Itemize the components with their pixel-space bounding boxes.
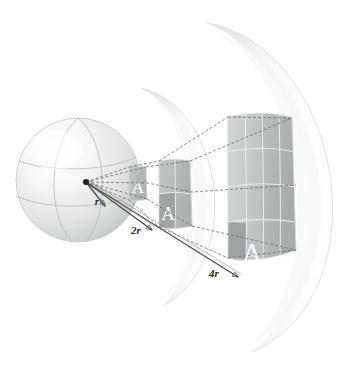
sphere-body: [16, 118, 140, 242]
label-r: r: [95, 195, 100, 207]
patch-2r: A: [159, 159, 192, 229]
inverse-square-law-figure: A A A: [0, 0, 352, 372]
inner-sphere: [16, 118, 140, 242]
patch-4r: A: [228, 113, 296, 268]
sphere-highlight: [29, 130, 83, 170]
patch-r-letter: A: [132, 178, 145, 197]
label-4r: 4r: [208, 267, 220, 279]
figure-canvas: A A A: [0, 0, 352, 372]
patch-r: A: [129, 166, 147, 200]
label-2r: 2r: [130, 224, 142, 236]
patch-4r-letter: A: [242, 238, 262, 268]
point-source: [83, 179, 89, 185]
patch-2r-letter: A: [161, 203, 175, 224]
